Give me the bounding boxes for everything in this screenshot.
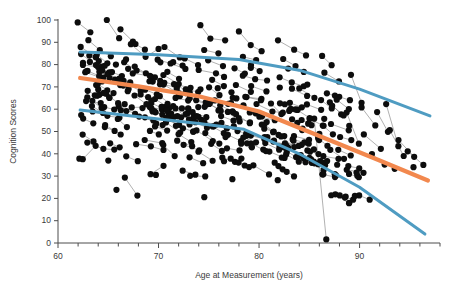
data-point	[334, 97, 340, 103]
data-point	[210, 138, 216, 144]
data-point	[195, 149, 201, 155]
data-point	[304, 81, 310, 87]
data-point	[242, 94, 248, 100]
y-tick-label: 50	[42, 126, 52, 136]
cognition-scores-scatter-chart: 010203040506070809010060708090Age at Mea…	[0, 0, 458, 293]
data-point	[311, 95, 317, 101]
y-tick-label: 40	[42, 149, 52, 159]
data-point	[319, 171, 325, 177]
data-point	[192, 172, 198, 178]
data-point	[348, 72, 354, 78]
data-point	[383, 101, 389, 107]
data-point	[221, 74, 227, 80]
data-point	[229, 176, 235, 182]
data-point	[222, 134, 228, 140]
data-point	[291, 47, 297, 53]
data-point	[220, 63, 226, 69]
data-point	[156, 131, 162, 137]
y-tick-label: 0	[46, 238, 51, 248]
data-point	[180, 168, 186, 174]
subject-trajectory	[377, 112, 388, 132]
data-point	[306, 137, 312, 143]
data-point	[341, 156, 347, 162]
data-point	[258, 97, 264, 103]
y-tick-label: 70	[42, 82, 52, 92]
data-point	[210, 158, 216, 164]
data-point	[132, 63, 138, 69]
x-tick-label: 80	[254, 251, 264, 261]
subject-trajectory	[239, 31, 262, 51]
data-point	[329, 103, 335, 109]
data-point	[80, 60, 86, 66]
data-point	[401, 153, 407, 159]
data-point	[153, 172, 159, 178]
data-point	[117, 144, 123, 150]
data-point	[346, 200, 352, 206]
data-point	[230, 118, 236, 124]
data-point	[160, 163, 166, 169]
data-point	[135, 158, 141, 164]
data-point	[200, 160, 206, 166]
data-point	[160, 72, 166, 78]
data-point	[330, 131, 336, 137]
data-point	[264, 77, 270, 83]
data-point	[233, 82, 239, 88]
data-point	[346, 106, 352, 112]
data-point	[110, 90, 116, 96]
data-point	[222, 37, 228, 43]
data-point	[209, 77, 215, 83]
data-point	[353, 169, 359, 175]
data-point	[122, 101, 128, 107]
data-point	[275, 132, 281, 138]
data-point	[346, 171, 352, 177]
data-point	[348, 137, 354, 143]
data-point	[179, 63, 185, 69]
data-point	[115, 100, 121, 106]
data-point	[215, 85, 221, 91]
y-axis-title: Cognition Scores	[8, 99, 18, 164]
x-axis-title: Age at Measurement (years)	[195, 270, 303, 280]
data-point	[411, 154, 417, 160]
data-point	[123, 56, 129, 62]
data-point	[261, 121, 267, 127]
data-point	[307, 116, 313, 122]
data-point	[155, 46, 161, 52]
data-point	[83, 68, 89, 74]
subject-trajectory	[125, 178, 138, 196]
data-point	[345, 163, 351, 169]
data-point	[179, 105, 185, 111]
data-point	[187, 173, 193, 179]
data-point	[197, 22, 203, 28]
data-point	[203, 114, 209, 120]
data-point	[147, 73, 153, 79]
data-point	[138, 91, 144, 97]
data-point	[395, 143, 401, 149]
data-point	[275, 37, 281, 43]
data-point	[291, 133, 297, 139]
data-point	[157, 81, 163, 87]
data-point	[118, 131, 124, 137]
axis-labels-layer: 010203040506070809010060708090Age at Mea…	[8, 15, 365, 280]
data-point	[289, 86, 295, 92]
data-point	[420, 162, 426, 168]
data-point	[296, 85, 302, 91]
data-point	[206, 84, 212, 90]
data-point	[337, 134, 343, 140]
data-point	[361, 131, 367, 137]
data-point	[145, 94, 151, 100]
data-point	[275, 163, 281, 169]
data-point	[190, 129, 196, 135]
data-point	[93, 54, 99, 60]
data-point	[164, 127, 170, 133]
data-point	[405, 148, 411, 154]
data-point	[187, 85, 193, 91]
data-point	[230, 95, 236, 101]
data-point	[202, 104, 208, 110]
data-point	[346, 123, 352, 129]
data-point	[323, 236, 329, 242]
data-point	[341, 112, 347, 118]
data-point	[342, 194, 348, 200]
x-tick-label: 90	[355, 251, 365, 261]
data-point	[180, 125, 186, 131]
data-point	[307, 149, 313, 155]
